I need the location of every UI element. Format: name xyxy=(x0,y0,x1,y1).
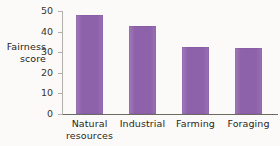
bar-farming xyxy=(182,47,209,114)
y-axis-line xyxy=(62,11,63,114)
y-tick-label-40: 40 xyxy=(41,26,53,37)
y-tick-0: 0 xyxy=(58,114,63,115)
y-tick-label-10: 10 xyxy=(41,87,53,98)
y-tick-40: 40 xyxy=(58,32,63,33)
x-axis-line xyxy=(62,114,278,115)
y-axis-title-line-1: Fairness xyxy=(0,41,46,53)
y-tick-label-50: 50 xyxy=(41,5,53,16)
y-tick-20: 20 xyxy=(58,73,63,74)
y-tick-10: 10 xyxy=(58,93,63,94)
x-label-foraging: Foraging xyxy=(215,118,280,130)
plot-area: 0 10 20 30 40 50 Natural resources Indus… xyxy=(62,11,278,114)
bar-natural-resources xyxy=(76,15,103,114)
bar-industrial xyxy=(129,26,156,114)
y-axis-title: Fairness score xyxy=(0,41,46,65)
bar-foraging xyxy=(235,48,262,114)
y-tick-label-0: 0 xyxy=(47,108,53,119)
y-tick-label-20: 20 xyxy=(41,67,53,78)
y-tick-50: 50 xyxy=(58,11,63,12)
y-tick-label-30: 30 xyxy=(41,46,53,57)
y-axis-title-line-2: score xyxy=(0,53,46,65)
bar-chart-figure: Fairness score 0 10 20 30 40 50 Natural xyxy=(0,0,280,146)
y-tick-30: 30 xyxy=(58,52,63,53)
